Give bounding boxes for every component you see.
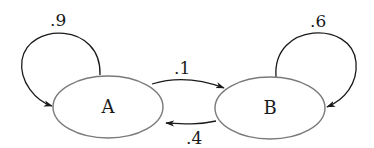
node-b-label: B: [263, 97, 276, 118]
edge-label-a-a: .9: [50, 10, 66, 30]
arrow-b-to-a: [166, 121, 216, 124]
edge-b-to-a: .4: [166, 121, 216, 148]
edge-label-a-b: .1: [174, 58, 190, 78]
node-b: B: [215, 77, 325, 139]
state-transition-diagram: .9 .1 .4 .6 A B: [0, 0, 374, 148]
edge-label-b-b: .6: [310, 11, 326, 31]
node-a: A: [53, 76, 163, 138]
edge-label-b-a: .4: [186, 128, 202, 148]
edge-a-to-b: .1: [152, 58, 224, 88]
arrow-a-to-b: [152, 80, 224, 88]
node-a-label: A: [101, 96, 116, 117]
